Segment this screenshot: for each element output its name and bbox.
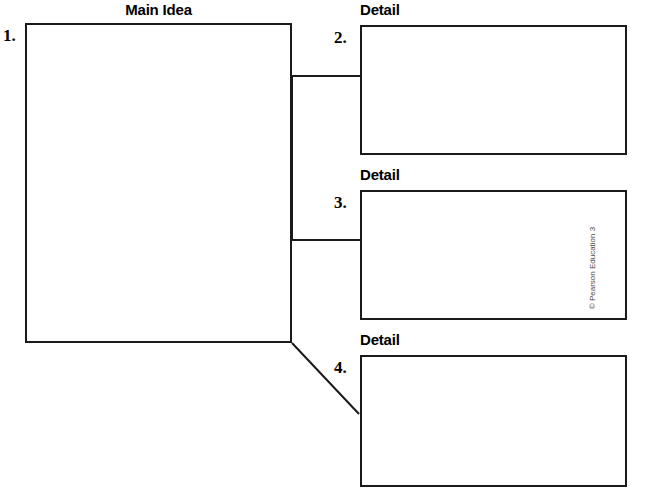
worksheet-page: Main Idea 1. Detail 2. Detail 3. Detail … <box>0 0 672 502</box>
detail-input-box-3[interactable] <box>360 190 627 320</box>
main-idea-number: 1. <box>3 27 16 45</box>
detail-input-box-2[interactable] <box>360 25 627 155</box>
copyright-notice: © Pearson Education 3 <box>588 198 598 338</box>
detail-number-2: 2. <box>334 29 347 47</box>
detail-input-box-4[interactable] <box>360 355 627 487</box>
connector-to-detail-4 <box>292 343 359 414</box>
detail-heading-3: Detail <box>360 167 400 183</box>
detail-heading-4: Detail <box>360 332 400 348</box>
detail-number-3: 3. <box>334 194 347 212</box>
detail-heading-2: Detail <box>360 2 400 18</box>
main-idea-heading: Main Idea <box>25 2 292 18</box>
detail-number-4: 4. <box>334 359 347 377</box>
main-idea-input-box[interactable] <box>25 23 292 343</box>
